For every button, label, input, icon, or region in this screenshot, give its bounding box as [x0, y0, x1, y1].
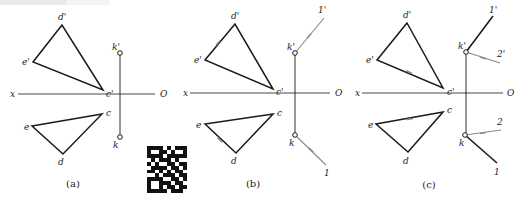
- front-view-triangle: [377, 23, 443, 88]
- vertex-label: c: [106, 108, 111, 118]
- panel-b: xOd'e'c'ced1'1k'k(b): [183, 5, 343, 189]
- vertex-label: e: [196, 120, 201, 130]
- vertex-label: e: [368, 120, 373, 130]
- point-label: k: [289, 138, 294, 148]
- point-label: k': [112, 42, 120, 52]
- x-axis-label: x: [183, 88, 188, 98]
- vertex-label: d: [58, 157, 64, 167]
- parallel-tick-mark: [309, 148, 313, 152]
- qr-code[interactable]: [147, 146, 187, 193]
- point-label: k': [287, 42, 295, 52]
- cropped-header-text: [0, 0, 110, 5]
- origin-label: O: [507, 88, 515, 98]
- panel-a: xOd'e'c'cedk'k(a): [10, 12, 168, 189]
- point-label: k': [458, 41, 466, 51]
- top-view-triangle: [376, 112, 443, 152]
- x-axis-label: x: [355, 88, 360, 98]
- panel-caption: (b): [246, 178, 260, 189]
- parallel-tick-mark: [307, 34, 311, 39]
- projection-diagram: xOd'e'c'cedk'k(a)xOd'e'c'ced1'1k'k(b)xOd…: [0, 0, 517, 200]
- solution-line: [466, 16, 493, 52]
- vertex-label: d': [231, 11, 239, 21]
- origin-label: O: [160, 89, 168, 99]
- line-endpoint-label: 2': [496, 49, 505, 59]
- point-label: k: [459, 138, 464, 148]
- vertex-label: c: [277, 108, 282, 118]
- vertex-label: e': [22, 57, 30, 67]
- vertex-label: c': [106, 89, 114, 99]
- parallel-tick-mark: [480, 57, 486, 59]
- point-label: k: [113, 140, 118, 150]
- figure-canvas: xOd'e'c'cedk'k(a)xOd'e'c'ced1'1k'k(b)xOd…: [0, 0, 517, 200]
- parallel-tick-mark: [407, 118, 413, 119]
- line-endpoint-label: 2: [496, 117, 503, 127]
- origin-label: O: [335, 88, 343, 98]
- line-endpoint-label: 1: [494, 167, 500, 177]
- panel-caption: (a): [66, 178, 80, 189]
- point-marker: [118, 135, 123, 140]
- panel-c: xOd'e'c'ced1'2'12k'k(c): [355, 5, 515, 190]
- top-view-triangle: [32, 114, 102, 154]
- vertex-label: c': [276, 87, 284, 97]
- front-view-triangle: [33, 25, 103, 90]
- solution-line: [465, 135, 497, 163]
- vertex-label: d: [231, 156, 237, 166]
- vertex-label: e': [194, 55, 202, 65]
- panel-caption: (c): [422, 179, 436, 190]
- vertex-label: e: [24, 122, 29, 132]
- vertex-label: c: [447, 105, 452, 115]
- line-endpoint-label: 1': [318, 5, 326, 15]
- point-marker: [293, 133, 298, 138]
- line-endpoint-label: 1: [324, 168, 330, 178]
- vertex-label: d': [58, 12, 66, 22]
- top-view-triangle: [205, 114, 273, 153]
- vertex-label: d: [403, 156, 409, 166]
- vertex-label: c': [447, 87, 455, 97]
- vertex-label: d': [403, 10, 411, 20]
- vertex-label: e': [366, 55, 374, 65]
- front-view-triangle: [205, 24, 273, 89]
- parallel-tick-mark: [480, 133, 486, 134]
- x-axis-label: x: [10, 89, 15, 99]
- point-marker: [463, 133, 468, 138]
- line-endpoint-label: 1': [489, 5, 497, 15]
